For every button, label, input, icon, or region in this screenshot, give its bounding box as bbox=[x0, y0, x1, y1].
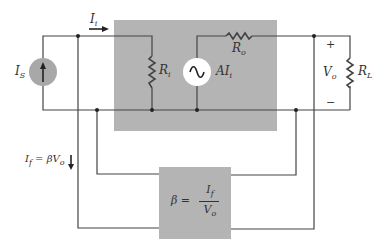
label-input-resistance: Ri bbox=[159, 63, 171, 79]
label-minus: − bbox=[326, 96, 335, 109]
arrow-right-icon bbox=[102, 26, 109, 32]
arrow-down-icon bbox=[68, 164, 74, 170]
label-plus: + bbox=[326, 38, 335, 51]
fraction-bar bbox=[199, 201, 219, 202]
label-input-current: Ii bbox=[90, 12, 97, 28]
label-load-resistance: RL bbox=[358, 64, 372, 80]
label-beta-lhs: β = bbox=[171, 194, 190, 207]
label-beta-denominator: Vo bbox=[199, 203, 221, 218]
label-output-resistance: Ro bbox=[232, 41, 246, 57]
label-feedback-current: If = βVo bbox=[25, 153, 65, 167]
label-output-voltage: Vo bbox=[323, 65, 337, 81]
label-source-current: IS bbox=[15, 64, 25, 80]
label-beta-numerator: If bbox=[199, 183, 221, 198]
rl-resistor bbox=[347, 58, 353, 88]
label-controlled-source: AIi bbox=[216, 64, 232, 80]
